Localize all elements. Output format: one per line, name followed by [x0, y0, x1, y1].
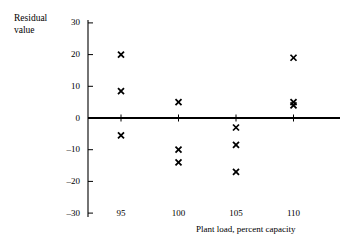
data-point-6	[233, 125, 239, 131]
data-point-8	[233, 169, 239, 175]
plot-area	[0, 0, 352, 247]
data-point-1	[118, 88, 124, 94]
data-marker-group	[118, 52, 297, 175]
data-point-3	[176, 99, 182, 105]
data-point-9	[291, 55, 297, 61]
data-point-5	[176, 159, 182, 165]
data-point-4	[176, 147, 182, 153]
data-point-2	[118, 132, 124, 138]
data-point-7	[233, 142, 239, 148]
data-point-0	[118, 52, 124, 58]
residual-plot-figure: Residual value Plant load, percent capac…	[0, 0, 352, 247]
axes-group	[88, 20, 340, 217]
